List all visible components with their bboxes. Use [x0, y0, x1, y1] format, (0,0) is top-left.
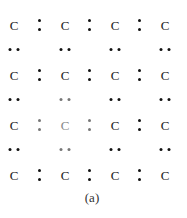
carbon-atom: C: [108, 169, 122, 182]
electron-pair-vertical-bond: [9, 148, 20, 152]
electron-pair-horizontal-bond: [138, 19, 142, 31]
carbon-atom: C: [158, 69, 172, 82]
electron-pair-vertical-bond: [60, 48, 71, 52]
electron-pair-horizontal-bond: [138, 69, 142, 81]
carbon-atom: C: [158, 19, 172, 32]
electron-pair-vertical-bond: [60, 148, 71, 152]
electron-pair-vertical-bond: [110, 48, 121, 52]
electron-pair-vertical-bond: [160, 148, 171, 152]
carbon-atom: C: [58, 19, 72, 32]
electron-pair-horizontal-bond: [88, 119, 92, 131]
carbon-atom: C: [108, 119, 122, 132]
carbon-atom: C: [7, 169, 21, 182]
carbon-atom: C: [158, 119, 172, 132]
carbon-atom: C: [58, 119, 72, 132]
electron-pair-horizontal-bond: [88, 19, 92, 31]
electron-pair-vertical-bond: [9, 48, 20, 52]
electron-pair-horizontal-bond: [138, 169, 142, 181]
carbon-atom: C: [7, 69, 21, 82]
electron-pair-vertical-bond: [110, 98, 121, 102]
electron-pair-horizontal-bond: [88, 169, 92, 181]
electron-pair-vertical-bond: [110, 148, 121, 152]
electron-pair-horizontal-bond: [38, 169, 42, 181]
electron-pair-horizontal-bond: [38, 119, 42, 131]
electron-pair-vertical-bond: [9, 98, 20, 102]
carbon-atom: C: [58, 69, 72, 82]
carbon-atom: C: [108, 69, 122, 82]
electron-pair-horizontal-bond: [88, 69, 92, 81]
electron-pair-horizontal-bond: [38, 69, 42, 81]
electron-pair-vertical-bond: [160, 48, 171, 52]
carbon-atom: C: [7, 119, 21, 132]
carbon-atom: C: [58, 169, 72, 182]
carbon-atom: C: [7, 19, 21, 32]
carbon-atom: C: [108, 19, 122, 32]
carbon-atom: C: [158, 169, 172, 182]
electron-pair-vertical-bond: [60, 98, 71, 102]
electron-pair-horizontal-bond: [38, 19, 42, 31]
figure-caption: (a): [85, 190, 99, 206]
electron-pair-horizontal-bond: [138, 119, 142, 131]
electron-pair-vertical-bond: [160, 98, 171, 102]
